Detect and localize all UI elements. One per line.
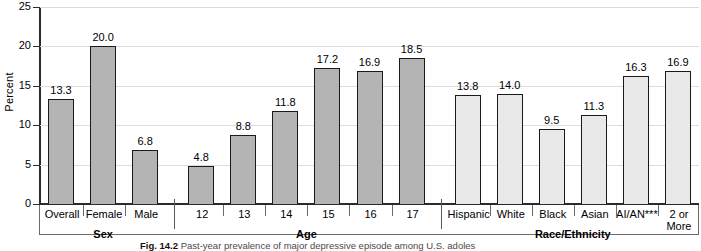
bar [455,95,481,204]
category-separator [532,205,533,216]
bar-value-label: 13.8 [444,81,492,92]
bar [665,71,691,204]
gridline [40,46,699,47]
bar-value-label: 20.0 [79,32,127,43]
bar-value-label: 4.8 [177,152,225,163]
bar-value-label: 18.5 [388,44,436,55]
bar [399,58,425,204]
y-tick-label: 0 [0,198,31,209]
group-title-sex: Sex [33,228,173,240]
category-separator [223,205,224,216]
y-axis-title: Percent [3,62,15,122]
category-separator [125,205,126,216]
category-separator [490,205,491,216]
bar [497,94,523,204]
y-tick-label: 25 [0,1,31,12]
bar [132,150,158,204]
caption-text: Past-year prevalence of major depressive… [181,240,476,251]
figure-caption: Fig. 14.2 Past-year prevalence of major … [140,240,610,251]
plot-area: 13.320.06.84.88.811.817.216.918.513.814.… [40,7,699,204]
bar-value-label: 9.5 [528,115,576,126]
category-separator [392,205,393,216]
y-tick-label: 20 [0,40,31,51]
bar [272,111,298,204]
bar [48,99,74,204]
bar-value-label: 16.3 [612,62,660,73]
y-tick-label: 15 [0,80,31,91]
bar-value-label: 11.8 [261,97,309,108]
bar-value-label: 6.8 [121,136,169,147]
bar [90,46,116,204]
y-tick-label: 10 [0,119,31,130]
category-label: 2 or More [643,209,701,232]
group-title-race: Race/Ethnicity [503,228,643,240]
category-separator [83,205,84,216]
category-separator [616,205,617,216]
bar-value-label: 17.2 [303,54,351,65]
bar [357,71,383,204]
y-tick-label: 5 [0,159,31,170]
bar-value-label: 13.3 [37,85,85,96]
bar-value-label: 16.9 [654,57,701,68]
bar [581,115,607,204]
bar-value-label: 11.3 [570,101,618,112]
bar-value-label: 8.8 [219,121,267,132]
category-separator [574,205,575,216]
bar [623,76,649,204]
bar [188,166,214,204]
category-separator [658,205,659,216]
category-separator [307,205,308,216]
figure-number: Fig. 14.2 [140,240,178,251]
bar [314,68,340,204]
bar [230,135,256,204]
bar-value-label: 16.9 [346,57,394,68]
category-separator [265,205,266,216]
gridline [40,7,699,8]
bar [539,129,565,204]
group-title-age: Age [236,228,376,240]
bar-value-label: 14.0 [486,80,534,91]
category-separator [349,205,350,216]
